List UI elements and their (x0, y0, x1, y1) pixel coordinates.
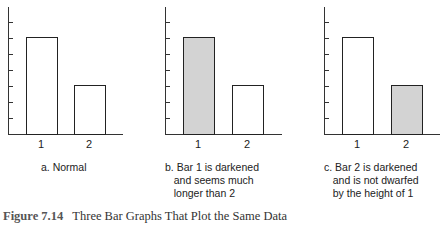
y-tick (8, 38, 13, 39)
y-tick (165, 22, 170, 23)
caption: b. Bar 1 is darkened and seems much long… (165, 161, 259, 200)
x-label-1: 1 (31, 138, 51, 150)
y-tick (324, 86, 329, 87)
bar-1 (342, 37, 374, 135)
y-tick (165, 70, 170, 71)
caption: a. Normal (41, 161, 87, 174)
bar-2 (74, 85, 106, 135)
figure-title: Three Bar Graphs That Plot the Same Data (72, 209, 287, 223)
figure-number: Figure 7.14 (3, 209, 63, 223)
y-tick (8, 86, 13, 87)
bar-2 (232, 85, 264, 135)
x-label-2: 2 (396, 138, 416, 150)
x-label-1: 1 (347, 138, 367, 150)
y-tick (324, 102, 329, 103)
y-tick (324, 22, 329, 23)
y-tick (8, 22, 13, 23)
panel-a: 1 2 a. Normal (0, 0, 150, 200)
panel-c: 1 2 c. Bar 2 is darkened and is not dwar… (316, 0, 447, 200)
y-tick (8, 54, 13, 55)
bar-1-highlighted (183, 37, 215, 135)
y-tick (8, 102, 13, 103)
y-tick (165, 118, 170, 119)
figure-caption: Figure 7.14 Three Bar Graphs That Plot t… (3, 209, 287, 224)
caption: c. Bar 2 is darkened and is not dwarfed … (324, 161, 419, 200)
y-tick (8, 70, 13, 71)
y-tick (324, 54, 329, 55)
y-tick (324, 118, 329, 119)
x-label-2: 2 (79, 138, 99, 150)
y-tick (165, 102, 170, 103)
y-tick (324, 38, 329, 39)
x-label-2: 2 (237, 138, 257, 150)
y-tick (165, 38, 170, 39)
bar-2-highlighted (391, 85, 423, 135)
y-tick (165, 54, 170, 55)
x-label-1: 1 (188, 138, 208, 150)
y-tick (324, 70, 329, 71)
y-tick (165, 86, 170, 87)
bar-1 (26, 37, 58, 135)
panel-b: 1 2 b. Bar 1 is darkened and seems much … (157, 0, 307, 200)
y-tick (8, 118, 13, 119)
